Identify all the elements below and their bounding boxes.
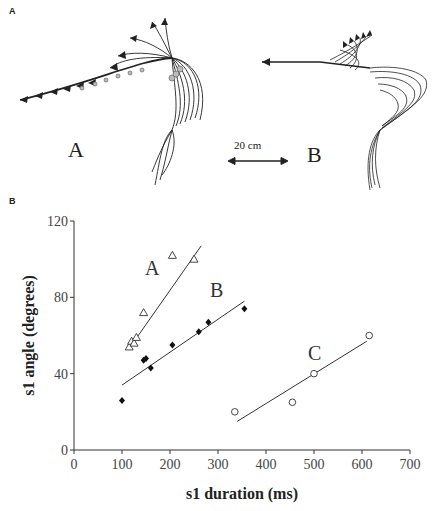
data-point-diamond (119, 397, 125, 404)
y-axis-label: s1 angle (degrees) (20, 275, 38, 396)
x-tick-label: 700 (400, 457, 421, 472)
x-tick-label: 0 (71, 457, 78, 472)
y-tick-label: 120 (47, 214, 68, 229)
series-label-c: C (308, 342, 321, 364)
data-point-circle (311, 370, 318, 377)
data-point-diamond (148, 364, 154, 371)
y-tick-label: 40 (54, 367, 68, 382)
x-tick-label: 200 (160, 457, 181, 472)
data-point-triangle (190, 255, 198, 262)
x-tick-label: 400 (256, 457, 277, 472)
x-tick-label: 100 (112, 457, 133, 472)
x-tick-label: 600 (352, 457, 373, 472)
series-label-b: B (210, 279, 223, 301)
y-tick-label: 80 (54, 290, 68, 305)
y-tick-label: 0 (61, 443, 68, 458)
data-point-triangle (140, 309, 148, 316)
data-point-circle (366, 332, 373, 339)
x-axis-label: s1 duration (ms) (186, 485, 298, 503)
data-point-diamond (241, 305, 247, 312)
x-tick-label: 500 (304, 457, 325, 472)
series-label-a: A (145, 257, 160, 279)
data-point-triangle (168, 251, 176, 258)
data-point-diamond (169, 342, 175, 349)
data-point-circle (289, 399, 296, 406)
data-point-circle (232, 409, 239, 416)
fit-line-c (237, 341, 367, 421)
x-tick-label: 300 (208, 457, 229, 472)
scatter-chart: 040801200100200300400500600700s1 duratio… (0, 0, 432, 511)
